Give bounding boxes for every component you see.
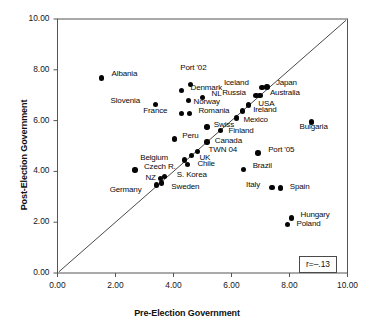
data-point-marker: [234, 115, 239, 120]
data-point-label: Russia: [222, 88, 246, 97]
x-tick-label: 8.00: [270, 280, 310, 290]
data-point-marker: [172, 136, 177, 141]
data-point-label: Ireland: [253, 105, 276, 114]
data-point-marker: [255, 150, 260, 155]
data-point-label: TWN 04: [209, 145, 237, 154]
y-tick-label: 4.00: [14, 165, 50, 175]
data-point-label: Romania: [198, 106, 229, 115]
data-point-label: France: [143, 106, 167, 115]
identity-reference-line: [59, 20, 346, 271]
data-point-label: Spain: [290, 182, 310, 191]
data-point-label: Belgium: [140, 153, 168, 162]
data-point-label: Port '05: [268, 145, 294, 154]
data-point-label: Peru: [182, 131, 198, 140]
x-tick-label: 6.00: [212, 280, 252, 290]
data-point-label: Italy: [246, 180, 260, 189]
y-tick-label: 2.00: [14, 216, 50, 226]
data-point-label: Germany: [110, 185, 142, 194]
data-point-marker: [204, 124, 209, 129]
data-point-label: Sweden: [171, 182, 199, 191]
data-point-marker: [159, 180, 164, 185]
data-point-label: Hungary: [301, 210, 330, 219]
data-point-label: Japan: [276, 78, 297, 87]
data-point-label: Mexico: [243, 115, 267, 124]
data-point-marker: [257, 93, 262, 98]
data-point-label: Czech R.: [144, 162, 176, 171]
data-point-label: Australia: [270, 88, 300, 97]
data-point-marker: [246, 102, 251, 107]
data-point-marker: [264, 84, 269, 89]
data-point-marker: [259, 85, 264, 90]
data-point-label: Poland: [296, 219, 320, 228]
x-tick-label: 4.00: [154, 280, 194, 290]
data-point-marker: [289, 215, 294, 220]
x-tick-label: 0.00: [38, 280, 78, 290]
y-tick-label: 6.00: [14, 115, 50, 125]
data-point-label: Iceland: [224, 78, 249, 87]
scatter-plot-figure: Post-Election Government Pre-Election Go…: [0, 0, 374, 328]
data-point-marker: [269, 185, 274, 190]
x-axis-title: Pre-Election Government: [0, 308, 374, 318]
data-point-label: Brazil: [253, 161, 272, 170]
data-point-label: S. Korea: [177, 170, 207, 179]
data-point-label: Albania: [112, 69, 138, 78]
data-point-label: Port '02: [180, 63, 206, 72]
x-tick-label: 10.00: [328, 280, 368, 290]
data-point-label: Finland: [228, 126, 253, 135]
x-tick-label: 2.00: [96, 280, 136, 290]
data-point-label: Bulgaria: [300, 122, 328, 131]
data-point-label: Slovenia: [111, 96, 141, 105]
data-point-marker: [154, 182, 159, 187]
correlation-annotation: r=–.13: [299, 256, 337, 273]
y-tick-label: 8.00: [14, 64, 50, 74]
data-point-marker: [99, 75, 104, 80]
data-point-marker: [132, 167, 137, 172]
data-point-marker: [240, 108, 245, 113]
y-axis-title: Post-Election Government: [19, 75, 29, 235]
data-point-label: Chile: [197, 159, 214, 168]
y-tick-label: 0.00: [14, 267, 50, 277]
data-point-label: NZ: [145, 173, 155, 182]
y-tick-label: 10.00: [14, 13, 50, 23]
